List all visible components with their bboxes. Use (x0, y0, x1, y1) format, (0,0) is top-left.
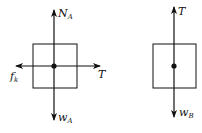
block-b-diagram: T wB (153, 5, 196, 120)
label-weight-b: wB (179, 106, 194, 120)
block-b-center-dot (171, 63, 176, 68)
free-body-diagrams: NA wA fk T T wB (0, 0, 202, 133)
label-friction: fk (9, 70, 18, 84)
block-a-diagram: NA wA fk T (9, 7, 107, 125)
label-normal-force: NA (57, 7, 73, 21)
label-tension-a: T (98, 68, 107, 81)
label-tension-b: T (178, 5, 187, 18)
label-weight-a: wA (58, 111, 72, 125)
block-a-center-dot (51, 63, 56, 68)
